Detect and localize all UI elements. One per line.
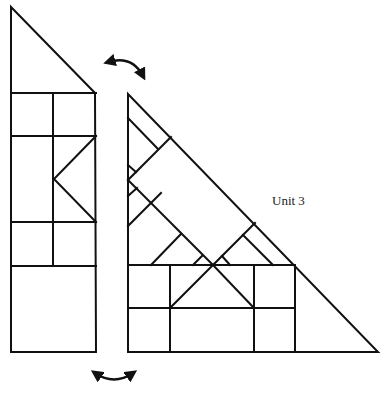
center-diag-1: [170, 265, 213, 308]
top-strip-line: [128, 118, 158, 149]
strip-line-2: [151, 234, 181, 265]
small-tick-1: [128, 165, 136, 172]
rect-lower-edge: [128, 180, 213, 265]
center-diag-2: [213, 265, 254, 308]
small-tick-2: [128, 188, 137, 196]
right-piece: [128, 94, 378, 352]
bottom-swap-arrow-icon: [95, 373, 133, 380]
top-swap-arrow-icon: [108, 60, 143, 76]
strip-line-3: [193, 256, 202, 265]
unit-label: Unit 3: [272, 193, 305, 209]
rect-upper-edge: [128, 137, 171, 180]
strip-line-5: [222, 256, 230, 265]
left-piece: [11, 7, 96, 352]
strip-line-1: [128, 193, 161, 226]
rect-right-edge: [213, 223, 255, 265]
left-chevron: [54, 136, 96, 222]
quilt-unit-diagram: [0, 0, 386, 397]
